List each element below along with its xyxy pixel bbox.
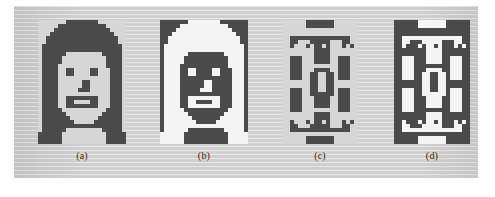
figure-panel-c: (c) (282, 20, 358, 161)
figure-caption-c: (c) (314, 150, 326, 161)
bitmap-zhong-seal-pattern-complement (394, 20, 470, 144)
bitmap-face-pattern-complement (160, 20, 248, 144)
figure-panel-d: (d) (394, 20, 470, 161)
bitmap-face-pattern (38, 20, 126, 144)
figure-panel-b: (b) (160, 20, 248, 161)
figure-caption-a: (a) (76, 150, 88, 161)
scanned-figure-panel: (a)(b)(c)(d) (14, 6, 478, 178)
figure-root: (a)(b)(c)(d) (0, 0, 495, 197)
figure-panel-a: (a) (38, 20, 126, 161)
figure-caption-d: (d) (426, 150, 438, 161)
figure-caption-b: (b) (198, 150, 210, 161)
bitmap-zhong-seal-pattern (282, 20, 358, 144)
